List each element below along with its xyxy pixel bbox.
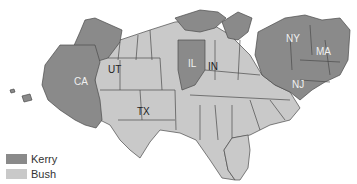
- state-hi: [10, 89, 32, 102]
- state-ca: [42, 45, 102, 128]
- legend-item-kerry: Kerry: [6, 152, 57, 166]
- label-ca: CA: [74, 76, 88, 87]
- label-il: IL: [188, 58, 196, 69]
- legend: Kerry Bush: [6, 152, 57, 182]
- label-tx: TX: [137, 106, 150, 117]
- label-ut: UT: [108, 64, 121, 75]
- kerry-swatch: [6, 154, 27, 164]
- legend-label-kerry: Kerry: [31, 153, 57, 165]
- label-in: IN: [208, 61, 218, 72]
- label-nj: NJ: [292, 79, 304, 90]
- legend-item-bush: Bush: [6, 167, 57, 181]
- legend-label-bush: Bush: [31, 168, 56, 180]
- bush-swatch: [6, 169, 27, 179]
- label-ma: MA: [316, 46, 331, 57]
- label-ny: NY: [286, 33, 300, 44]
